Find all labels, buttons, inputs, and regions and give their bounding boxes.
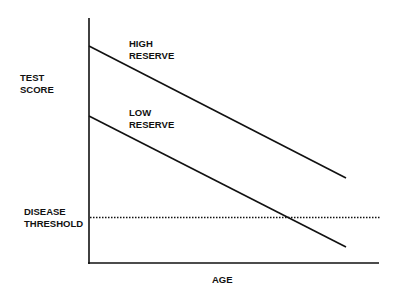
high-reserve-line [89,46,346,178]
threshold-label: DISEASE THRESHOLD [24,206,83,230]
y-axis-label: TEST SCORE [20,72,54,96]
chart-canvas [0,0,402,296]
low-reserve-line [89,116,346,247]
high-reserve-label: HIGH RESERVE [129,38,174,62]
low-reserve-label: LOW RESERVE [129,107,174,131]
x-axis-label: AGE [212,274,233,286]
